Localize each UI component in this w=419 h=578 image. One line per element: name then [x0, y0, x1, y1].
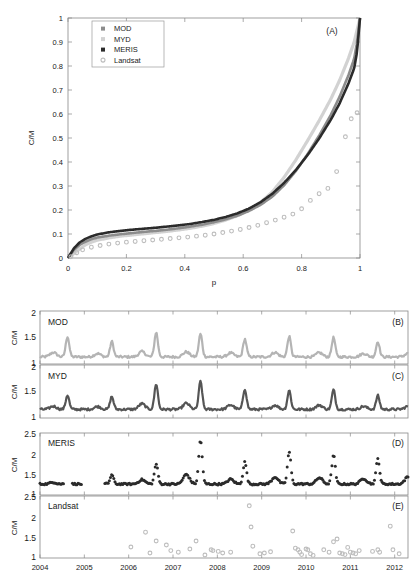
meris-marker [153, 472, 156, 475]
meris-marker [150, 482, 153, 485]
meris-marker [330, 464, 333, 467]
panel-e-tick-250: 2.5 [24, 492, 36, 502]
meris-marker [403, 479, 406, 482]
panel-a-xtick-0.2: 0.2 [121, 264, 131, 273]
meris-marker [334, 465, 337, 468]
panel-a-ytick-0.9: 0.9 [53, 38, 63, 47]
panel-c-label: (C) [392, 371, 404, 381]
meris-marker [328, 479, 331, 482]
xtick-year-2012: 2012 [386, 563, 403, 572]
xtick-year-2010: 2010 [298, 563, 315, 572]
meris-marker [288, 451, 291, 454]
panel-a-ytick-0.3: 0.3 [53, 182, 63, 191]
panel-b-ylabel: C/M [10, 330, 19, 345]
meris-marker [376, 457, 379, 460]
meris-marker [373, 479, 376, 482]
meris-marker [285, 476, 288, 479]
panel-a-ytick-0.8: 0.8 [53, 62, 63, 71]
panel-a-ytick-0.7: 0.7 [53, 86, 63, 95]
meris-marker [200, 441, 203, 444]
xtick-year-2006: 2006 [120, 563, 137, 572]
meris-marker [194, 482, 197, 485]
xtick-year-2011: 2011 [342, 563, 358, 572]
meris-marker [195, 479, 198, 482]
panel-e-tick-150: 1.5 [24, 533, 36, 543]
panel-b-tick-mid: 1.5 [24, 332, 36, 342]
panel-d-ylabel: C/M [10, 457, 19, 472]
panel-b-series-label: MOD [48, 317, 68, 327]
meris-marker [156, 467, 159, 470]
panel-a-ytick-1: 1 [59, 14, 63, 23]
meris-marker [243, 460, 246, 463]
meris-marker [291, 478, 294, 481]
xtick-year-2008: 2008 [209, 563, 226, 572]
panel-d-tick-200: 2 [31, 450, 36, 460]
panel-d-series-label: MERIS [48, 438, 75, 448]
panel-e-tick-100: 1 [31, 552, 36, 562]
meris-marker [188, 477, 191, 480]
panel-a-xlabel: p [212, 278, 217, 287]
panel-a-ytick-0.1: 0.1 [53, 230, 63, 239]
meris-marker [379, 472, 382, 475]
panel-e-ylabel: C/M [10, 520, 19, 535]
meris-marker [108, 479, 111, 482]
legend-marker-meris [101, 48, 105, 52]
meris-marker [201, 455, 204, 458]
meris-marker [290, 471, 293, 474]
panel-e-label: (E) [392, 501, 404, 511]
xtick-year-2007: 2007 [165, 563, 182, 572]
meris-marker [372, 483, 375, 486]
panel-a-ylabel: C/M [27, 130, 36, 145]
meris-marker [377, 463, 380, 466]
meris-marker [287, 454, 290, 457]
meris-marker [202, 470, 205, 473]
panel-a-xtick-1: 1 [358, 264, 362, 273]
meris-marker [155, 463, 158, 466]
meris-marker [327, 483, 330, 486]
meris-marker [151, 479, 154, 482]
panel-a-legend: MODMYDMERISLandsat [92, 21, 164, 67]
meris-marker [286, 465, 289, 468]
meris-marker [80, 483, 83, 486]
panel-e-series-label: Landsat [48, 501, 79, 511]
meris-marker [245, 471, 248, 474]
panel-a-xtick-0.6: 0.6 [238, 264, 248, 273]
panel-a-label: (A) [326, 26, 338, 36]
legend-label-landsat: Landsat [114, 56, 142, 65]
meris-marker [407, 476, 410, 479]
panel-d-label: (D) [392, 438, 404, 448]
meris-marker [241, 475, 244, 478]
meris-marker [196, 470, 199, 473]
meris-marker [329, 473, 332, 476]
meris-marker [333, 455, 336, 458]
panel-a-ytick-0: 0 [59, 254, 63, 263]
meris-marker [374, 471, 377, 474]
panel-a-ytick-0.6: 0.6 [53, 110, 63, 119]
meris-marker [62, 482, 65, 485]
panel-e-tick-200: 2 [31, 513, 36, 523]
panel-d-tick-150: 1.5 [24, 470, 36, 480]
meris-marker [112, 477, 115, 480]
panel-a-ytick-0.4: 0.4 [53, 158, 63, 167]
meris-marker [244, 464, 247, 467]
xtick-year-2009: 2009 [253, 563, 270, 572]
meris-marker [111, 474, 114, 477]
panel-a-xtick-0.8: 0.8 [296, 264, 306, 273]
panel-c-ylabel: C/M [10, 384, 19, 399]
panel-a-xtick-0.4: 0.4 [180, 264, 190, 273]
xtick-year-2005: 2005 [76, 563, 93, 572]
timeseries-x-axis-years: 200420052006200720082009201020112012 [32, 563, 403, 572]
xtick-year-2004: 2004 [32, 563, 49, 572]
panel-c-tick-top: 2 [31, 362, 36, 372]
panel-c-tick-bot: 1 [31, 412, 36, 422]
meris-marker [283, 481, 286, 484]
panel-b-label: (B) [392, 317, 404, 327]
meris-marker [289, 459, 292, 462]
legend-label-mod: MOD [114, 24, 132, 33]
panel-c-tick-mid: 1.5 [24, 386, 36, 396]
meris-marker [157, 475, 160, 478]
panel-a-ytick-0.2: 0.2 [53, 206, 63, 215]
legend-label-myd: MYD [114, 35, 131, 44]
panel-a-xtick-0: 0 [66, 264, 70, 273]
meris-marker [242, 466, 245, 469]
